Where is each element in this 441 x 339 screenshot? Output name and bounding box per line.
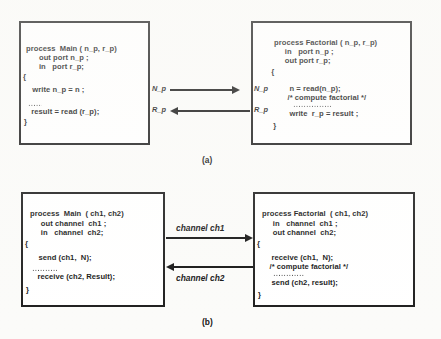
panel-a-factorial-line-7: write r_p = result ; — [283, 109, 358, 118]
figure-root: process Main ( n_p, r_p) out port n_p ; … — [0, 0, 441, 339]
panel-b-arrow-line-ch2 — [174, 266, 253, 268]
panel-b-factorial-line-2: out channel ch2; — [262, 228, 336, 237]
panel-a-left-port-label-n: N_p — [152, 84, 166, 93]
panel-a-main-ellipsis — [28, 104, 42, 106]
panel-b-main-ellipsis — [32, 269, 57, 271]
panel-b-arrow-head-ch2 — [166, 263, 174, 271]
panel-b-arrow-line-ch1 — [166, 237, 246, 239]
panel-a-arrow-line-r — [178, 110, 250, 112]
panel-b-factorial-line-5: /* compute factorial */ — [263, 262, 348, 271]
panel-a-main-process-box — [19, 21, 150, 145]
panel-a-arrow-line-n — [170, 89, 233, 91]
panel-a-main-line-6: result = read (r_p); — [27, 107, 99, 116]
panel-b-channel-ch1-label: channel ch1 — [176, 223, 224, 233]
panel-a-main-line-1: out port n_p ; — [26, 53, 89, 62]
panel-b-main-line-3: { — [25, 239, 28, 248]
panel-a-main-line-3: { — [23, 72, 26, 81]
panel-a-factorial-line-8: } — [269, 121, 276, 130]
panel-a-main-line-2: in port r_p; — [26, 62, 84, 71]
panel-a-factorial-line-2: out port r_p; — [274, 56, 331, 65]
panel-a-arrow-head-n — [232, 86, 240, 94]
panel-a-right-port-label-n: N_p — [254, 84, 268, 93]
panel-b-caption: (b) — [202, 317, 213, 327]
panel-b-main-line-6: receive (ch2, Result); — [31, 272, 115, 281]
panel-a-left-port-label-r: R_p — [152, 105, 166, 114]
panel-b-main-line-0: process Main ( ch1, ch2) — [30, 209, 124, 218]
panel-b-factorial-line-0: process Factorial ( ch1, ch2) — [262, 209, 368, 218]
panel-b-factorial-line-3: { — [257, 239, 260, 248]
panel-a-factorial-line-5: /* compute factorial */ — [281, 93, 366, 102]
panel-a-arrow-head-r — [170, 107, 178, 115]
panel-b-main-line-7: } — [26, 285, 29, 294]
panel-b-factorial-ellipsis — [273, 274, 304, 276]
panel-a-main-line-0: process Main ( n_p, r_p) — [26, 44, 117, 53]
panel-b-factorial-line-1: in channel ch1 ; — [262, 219, 337, 228]
panel-a-caption: (a) — [202, 155, 212, 165]
panel-b-main-line-4: send (ch1, N); — [32, 253, 92, 262]
panel-a-right-port-label-r: R_p — [254, 105, 268, 114]
panel-a-factorial-line-3: { — [267, 67, 274, 76]
panel-b-channel-ch2-label: channel ch2 — [176, 273, 224, 283]
panel-b-factorial-line-7: send (ch2, result); — [265, 278, 338, 287]
panel-b-main-line-1: out channel ch1 ; — [30, 219, 106, 228]
panel-a-main-line-4: write n_p = n ; — [28, 85, 84, 94]
panel-a-factorial-ellipsis — [293, 105, 331, 107]
panel-b-arrow-head-ch1 — [245, 234, 253, 242]
panel-b-factorial-line-4: receive (ch1, N); — [265, 253, 333, 262]
panel-a-factorial-line-4: n = read(n_p); — [283, 84, 341, 93]
panel-a-factorial-line-0: process Factorial ( n_p, r_p) — [274, 38, 377, 47]
panel-a-factorial-line-1: in port n_p ; — [274, 47, 334, 56]
panel-b-main-line-2: in channel ch2; — [30, 228, 103, 237]
panel-b-factorial-line-8: } — [258, 290, 261, 299]
panel-a-main-line-7: } — [24, 117, 27, 126]
